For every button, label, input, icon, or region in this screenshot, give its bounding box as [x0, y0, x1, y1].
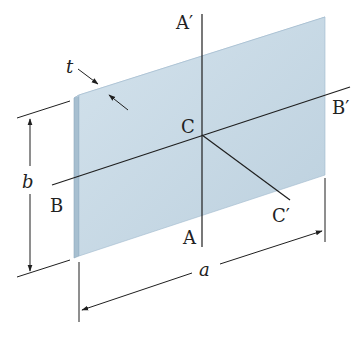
a-dimension-right-arrow [220, 231, 322, 264]
label-t: t [66, 56, 74, 77]
label-c: C [181, 116, 195, 137]
label-a-bottom: A [182, 227, 197, 248]
label-a-top: A′ [175, 12, 193, 33]
label-b: b [22, 171, 34, 192]
label-a: a [199, 259, 210, 280]
b-extension-bottom [17, 260, 70, 277]
label-c-end: C′ [272, 205, 290, 226]
label-b-left: B [50, 195, 63, 216]
plate-diagram: t b a C A′ A B B′ C′ [0, 0, 357, 339]
label-b-right: B′ [332, 97, 349, 118]
t-arrow-outer [78, 69, 98, 84]
b-extension-top [17, 101, 70, 118]
a-dimension-left-arrow [82, 273, 192, 310]
